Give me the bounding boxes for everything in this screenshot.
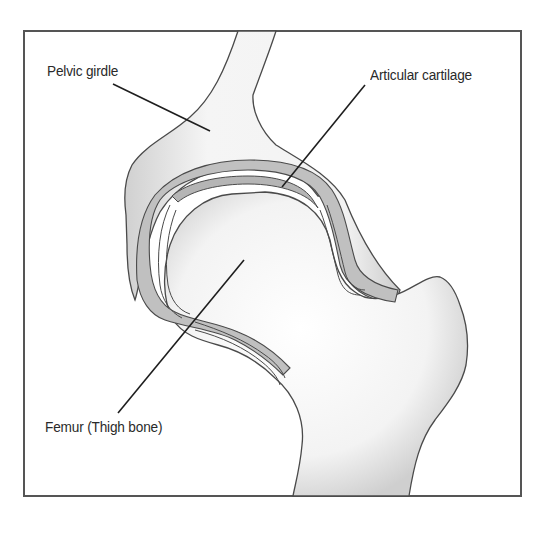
label-femur: Femur (Thigh bone) xyxy=(45,418,162,436)
pelvic-girdle-leader xyxy=(113,84,210,131)
label-pelvic-girdle: Pelvic girdle xyxy=(47,62,118,80)
femur-shape xyxy=(165,192,468,496)
hip-joint-diagram: Pelvic girdle Articular cartilage Femur … xyxy=(0,0,555,545)
articular-cartilage-leader xyxy=(282,85,365,187)
label-articular-cartilage: Articular cartilage xyxy=(370,66,472,84)
